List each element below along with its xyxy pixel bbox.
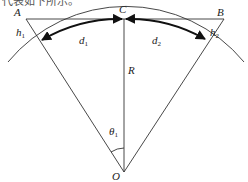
- label-d1: d1: [79, 34, 89, 48]
- label-r: R: [127, 64, 135, 76]
- geometry-diagram: A B C O h1 h2 d1 d2 R θ1: [0, 0, 248, 182]
- label-c: C: [119, 3, 127, 15]
- label-a: A: [13, 6, 21, 18]
- label-h1: h1: [16, 26, 26, 40]
- angle-theta1-arc: [111, 148, 124, 152]
- label-o: O: [112, 170, 120, 182]
- line-oa: [26, 19, 124, 172]
- label-d2: d2: [152, 34, 162, 48]
- line-ob: [124, 19, 224, 172]
- label-theta1: θ1: [109, 125, 118, 139]
- label-b: B: [217, 6, 224, 18]
